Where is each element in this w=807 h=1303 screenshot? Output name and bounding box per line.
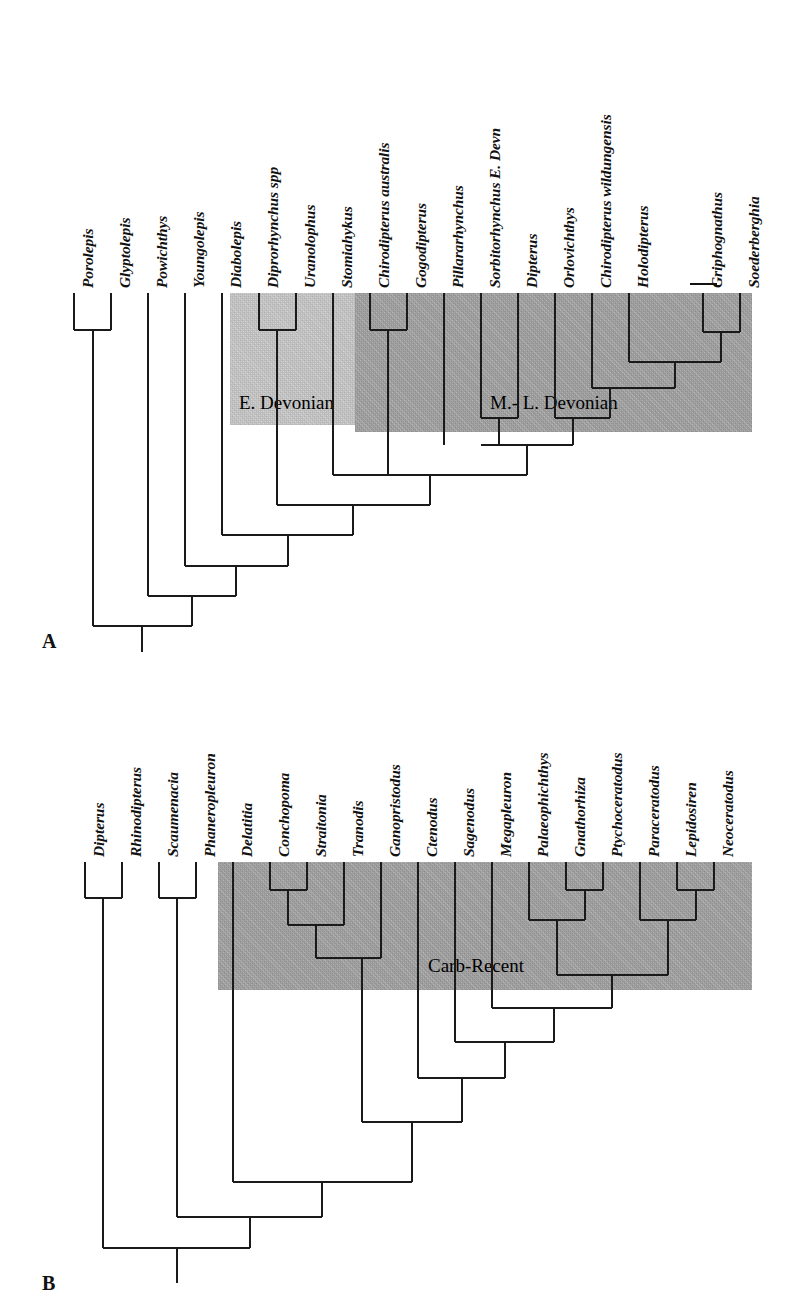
clade-palaeophichthys-stem [556,920,558,975]
taxon-label-rhinodipterus: Rhinodipterus [128,767,144,857]
branch-dipterus-a [517,293,519,418]
clade-diprorhynchus-uranolophus-stem [276,330,278,505]
time-band-label-e-devonian: E. Devonian [239,392,334,414]
ladder-stem-596 [191,596,193,626]
branch-ctenodus [417,862,419,1078]
ladder-ganopristodus-group-stem [411,1122,413,1182]
taxon-label-youngolepis: Youngolepis [191,212,207,288]
taxon-label-dipterus: Dipterus [91,803,107,857]
clade-gnathorhiza-ptychoceratodus-child-right [602,862,604,890]
clade-dipterus-rhinodipterus-child-right [121,862,123,898]
branch-sagenodus [454,862,456,1042]
branch-orlovichthys [554,293,556,388]
clade-porolepis-glyptolepis-child-right [110,293,112,330]
clade-griphognathus-soederberghia-child-left [702,293,704,332]
clade-conchopoma-straitonia-child-right [306,862,308,890]
ladder-scaumenacia-group-stem [249,1217,251,1248]
clade-holodipterus-child-right [720,332,722,362]
ladder-bar-475b [333,474,388,476]
taxon-label-gogodipterus: Gogodipterus [413,203,429,288]
clade-ganopristodus-child-right [380,862,382,958]
clade-conchopoma-straitonia-child-left [269,862,271,890]
taxon-label-chirodipterus-australis: Chirodipterus australis [376,143,392,288]
taxon-label-chirodipterus-wildungensis: Chirodipterus wildungensis [598,114,614,288]
clade-lepidosiren-neoceratodus-child-right [713,862,715,890]
taxon-label-glyptolepis: Glyptolepis [117,218,133,288]
taxon-label-griphognathus: Griphognathus [709,192,725,288]
ladder-ctenodus-stem [461,1078,463,1122]
ladder-orlovichthys-bar [555,417,610,419]
taxon-label-gnathorhiza: Gnathorhiza [572,777,588,857]
taxon-label-ctenodus: Ctenodus [424,798,440,858]
taxon-label-powichthys: Powichthys [154,216,170,288]
taxon-label-paraceratodus: Paraceratodus [646,765,662,857]
taxon-label-orlovichthys: Orlovichthys [561,207,577,288]
taxon-label-palaeophichthys: Palaeophichthys [535,753,551,857]
ladder-stomiahykus-link [332,445,334,475]
ladder-orlovichthys-child-left [554,388,556,418]
clade-chirodipterus-gogodipterus-child-left [369,293,371,330]
ladder-stem-535 [287,535,289,566]
clade-ganopristodus-stem [361,958,363,1122]
taxon-label-sagenodus: Sagenodus [461,788,477,857]
clade-lepidosiren-neoceratodus-stem [695,890,697,920]
root-stem [141,626,143,652]
taxon-label-diprorhynchus-spp: Diprorhynchus spp [265,167,281,288]
clade-ganopristodus-bar [316,957,381,959]
panel-b-cladogram: DipterusRhinodipterusScaumenaciaPhanerop… [0,660,807,1303]
clade-diprorhynchus-uranolophus-child-right [295,293,297,330]
clade-scaumenacia-phaneropleuron-child-left [158,862,160,898]
clade-diprorhynchus-uranolophus-child-left [258,293,260,330]
taxon-label-scaumenacia: Scaumenacia [165,772,181,857]
clade-porolepis-glyptolepis-stem [92,330,94,626]
taxon-label-delatitia: Delatitia [239,803,255,857]
taxon-label-pillararhynchus: Pillararhynchus [450,185,466,288]
griphognathus-bracket [690,283,717,285]
ladder-stem-475 [429,475,431,505]
clade-chiro-wild-child-right [674,362,676,388]
ladder-orlovichthys-child-right [609,388,611,418]
taxon-label-ganopristodus: Ganopristodus [387,764,403,857]
branch-pillararhynchus [443,293,445,445]
ladder-megapleuron-stem [553,1008,555,1042]
clade-holodipterus-child-left [628,293,630,362]
ladder-sagenodus-stem [504,1042,506,1078]
taxon-label-stomiahykus: Stomiahykus [339,206,355,288]
clade-paraceratodus-child-left [639,862,641,920]
ladder-stem-505 [352,505,354,535]
clade-chiro-wild-bar [592,387,675,389]
taxon-label-holodipterus: Holodipterus [635,206,651,288]
branch-megapleuron [491,862,493,1008]
taxon-label-neoceratodus: Neoceratodus [720,770,736,857]
taxon-label-megapleuron: Megapleuron [498,772,514,857]
clade-crown-stem [611,975,613,1008]
ladder-megapleuron-bar [492,1007,612,1009]
taxon-label-sorbitorhynchus-e-devn: Sorbitorhynchus E. Devn [487,128,503,288]
clade-palaeophichthys-child-left [528,862,530,920]
root-join-stem [176,1248,178,1283]
taxon-label-conchopoma: Conchopoma [276,773,292,857]
branch-delatitia [232,862,234,1182]
clade-conchopoma-straitonia-stem [287,890,289,925]
ladder-stem-445 [526,445,528,475]
panel-a-cladogram: PorolepisGlyptolepisPowichthysYoungolepi… [0,0,807,660]
ladder-sorbito-dipterus-stem [498,418,500,445]
taxon-label-uranolophus: Uranolophus [302,205,318,288]
clade-gnathorhiza-ptychoceratodus-child-left [565,862,567,890]
taxon-label-porolepis: Porolepis [80,229,96,288]
clade-dipterus-rhinodipterus-child-left [84,862,86,898]
clade-tranodis-child-right [343,862,345,925]
panel-letter-a: A [42,630,56,653]
clade-scaumenacia-phaneropleuron-child-right [195,862,197,898]
taxon-label-straitonia: Straitonia [313,794,329,857]
clade-porolepis-glyptolepis-child-left [73,293,75,330]
clade-paraceratodus-stem [667,920,669,975]
taxon-label-dipterus: Dipterus [524,234,540,288]
clade-gnathorhiza-ptychoceratodus-stem [584,890,586,920]
clade-griphognathus-soederberghia-child-right [739,293,741,332]
clade-chirodipterus-gogodipterus-child-right [406,293,408,330]
panel-letter-b: B [42,1272,55,1295]
clade-lepidosiren-neoceratodus-child-left [676,862,678,890]
clade-chirodipterus-gogodipterus-stem [387,330,389,475]
taxon-label-lepidosiren: Lepidosiren [683,782,699,857]
